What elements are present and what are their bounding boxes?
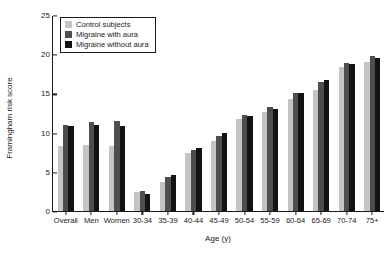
y-tick-label: 15 [41,90,53,98]
x-tick-label: 75+ [366,217,379,225]
bar [171,175,176,211]
x-tick-label: 65-69 [311,217,330,225]
bar-group: 45-49 [206,16,232,211]
x-tick-label: Overall [54,217,78,225]
framingham-risk-score-bar-chart: Framingham risk score 0510152025 Overall… [0,0,391,253]
bar [94,125,99,211]
y-tick: 5 [46,169,53,177]
x-tick-mark [346,211,347,215]
x-tick-mark [142,211,143,215]
x-tick-mark [372,211,373,215]
bar [68,126,73,211]
x-tick-label: Women [104,217,130,225]
bar-group-bars [206,16,232,211]
bar-group-bars [359,16,385,211]
y-tick-label: 25 [41,12,53,20]
legend-item: Migraine without aura [65,41,149,49]
bar [349,64,354,211]
y-tick-label: 5 [46,169,53,177]
x-tick-label: 50-54 [235,217,254,225]
legend-swatch-icon [65,21,72,28]
bar-group-bars [257,16,283,211]
bar-group: 65-69 [308,16,334,211]
bar [145,194,150,211]
x-tick-label: 60-64 [286,217,305,225]
legend-item: Control subjects [65,21,149,29]
x-tick-label: Men [84,217,99,225]
bar-group-bars [155,16,181,211]
x-tick-mark [295,211,296,215]
y-tick-label: 0 [46,208,53,216]
x-tick-mark [244,211,245,215]
bar [375,58,380,211]
x-axis-label: Age (y) [52,234,384,243]
x-tick-label: 30-34 [133,217,152,225]
x-tick-mark [65,211,66,215]
x-tick-mark [218,211,219,215]
legend-swatch-icon [65,31,72,38]
bar-group: 70-74 [334,16,360,211]
x-tick-label: 55-59 [260,217,279,225]
bar-group: 50-54 [232,16,258,211]
y-tick: 15 [41,90,53,98]
y-tick: 20 [41,51,53,59]
x-tick-label: 35-39 [158,217,177,225]
bar [273,109,278,211]
bar-group: 60-64 [283,16,309,211]
x-tick-mark [91,211,92,215]
y-tick-label: 20 [41,51,53,59]
y-tick: 0 [46,208,53,216]
bar-group-bars [283,16,309,211]
y-tick: 25 [41,12,53,20]
x-tick-mark [321,211,322,215]
bar [120,126,125,211]
y-tick-mark [53,211,57,212]
x-tick-label: 40-44 [184,217,203,225]
bar-group-bars [308,16,334,211]
bar [222,133,227,211]
bar-group: 75+ [359,16,385,211]
bar [298,93,303,211]
bar-group-bars [232,16,258,211]
bar-group: 55-59 [257,16,283,211]
bar-group: 40-44 [181,16,207,211]
bar [196,148,201,211]
bar-group-bars [181,16,207,211]
legend-item: Migraine with aura [65,31,149,39]
y-tick: 10 [41,130,53,138]
x-tick-label: 70-74 [337,217,356,225]
bar-group: 35-39 [155,16,181,211]
x-tick-mark [269,211,270,215]
y-axis-label: Framingham risk score [5,38,14,198]
x-tick-mark [193,211,194,215]
legend-swatch-icon [65,41,72,48]
legend-label: Control subjects [76,21,130,29]
bar [324,80,329,211]
x-tick-mark [167,211,168,215]
x-tick-label: 45-49 [209,217,228,225]
chart-legend: Control subjects Migraine with aura Migr… [60,17,156,53]
bar-group-bars [334,16,360,211]
x-tick-mark [116,211,117,215]
legend-label: Migraine without aura [76,41,149,49]
y-tick-label: 10 [41,130,53,138]
bar [247,116,252,211]
legend-label: Migraine with aura [76,31,138,39]
